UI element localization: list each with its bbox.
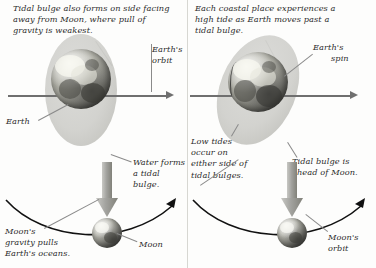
arrow-right-icon-spin-right	[350, 91, 358, 99]
panel-right: Each coastal place experiences a high ti…	[188, 0, 376, 268]
earth-globe-right	[228, 52, 288, 112]
caption-left: Tidal bulge also forms on side facing aw…	[13, 3, 173, 37]
label-earths-spin: Earth's spin	[313, 42, 349, 64]
label-earths-orbit: Earth's orbit	[152, 44, 183, 66]
label-low-tides: Low tides occur on either side of tidal …	[191, 136, 247, 181]
earths-orbit-leader	[151, 44, 152, 92]
label-water-forms: Water forms a tidal bulge.	[133, 157, 188, 191]
figure-canvas: Tidal bulge also forms on side facing aw…	[0, 0, 376, 268]
caption-right: Each coastal place experiences a high ti…	[195, 3, 351, 37]
label-moons-orbit: Moon's orbit	[328, 232, 359, 254]
arrow-right-icon-orbit-left	[166, 91, 174, 99]
label-moons-gravity: Moon's gravity pulls Earth's oceans.	[5, 226, 70, 260]
panel-left: Tidal bulge also forms on side facing aw…	[0, 0, 188, 268]
label-moon: Moon	[139, 239, 163, 250]
label-earth: Earth	[6, 116, 30, 127]
moon-globe-right	[277, 218, 307, 248]
earth-globe-left	[51, 49, 111, 109]
